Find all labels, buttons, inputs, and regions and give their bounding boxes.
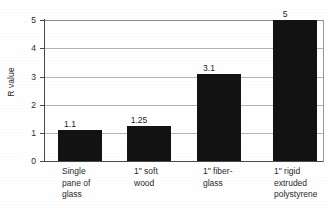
x-category-label-1-line-3: glass (62, 189, 90, 201)
y-tick-label-3: 3 (16, 72, 36, 82)
x-category-label-3-line-1: 1" fiber- (203, 166, 232, 178)
x-axis-line (44, 161, 324, 162)
x-category-label-1: Single pane of glass (62, 166, 90, 201)
x-category-label-4: 1" rigid extruded polystyrene (274, 166, 317, 201)
x-category-label-4-line-3: polystyrene (274, 189, 317, 201)
y-tick-label-4: 4 (16, 43, 36, 53)
y-tick-mark-0 (40, 161, 44, 162)
x-category-label-1-line-1: Single (62, 166, 90, 178)
y-tick-label-2: 2 (16, 100, 36, 110)
bar-value-label-3: 3.1 (187, 63, 231, 73)
x-category-label-4-line-2: extruded (274, 178, 317, 190)
bar-value-label-2: 1.25 (117, 115, 161, 125)
y-axis-title: R value (6, 52, 16, 112)
bar-value-label-1: 1.1 (48, 119, 92, 129)
bar-1in-rigid-extruded-polystyrene (273, 20, 317, 161)
bar-single-pane-of-glass (58, 130, 102, 161)
x-category-label-2: 1" soft wood (134, 166, 158, 189)
y-tick-label-0: 0 (16, 156, 36, 166)
x-category-label-3-line-2: glass (203, 178, 232, 190)
plot-right-border (323, 20, 324, 162)
bar-1in-soft-wood (127, 126, 171, 161)
x-category-label-2-line-1: 1" soft (134, 166, 158, 178)
bar-chart: R value 5 4 3 2 1 0 1.1 1.25 3.1 5 Singl… (0, 0, 334, 208)
x-category-label-3: 1" fiber- glass (203, 166, 232, 189)
x-category-label-2-line-2: wood (134, 178, 158, 190)
bars-container (44, 20, 323, 161)
y-tick-label-5: 5 (16, 15, 36, 25)
y-tick-label-1: 1 (16, 128, 36, 138)
x-category-label-4-line-1: 1" rigid (274, 166, 317, 178)
x-category-label-1-line-2: pane of (62, 178, 90, 190)
bar-value-label-4: 5 (263, 9, 307, 19)
bar-1in-fiberglass (197, 74, 241, 161)
